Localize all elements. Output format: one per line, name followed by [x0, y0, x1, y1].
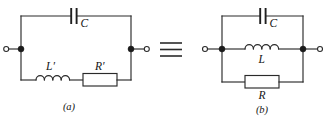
inductor-a-label: L′: [45, 60, 55, 72]
terminal-a-right-icon: [144, 47, 149, 52]
capacitor-b-icon: [260, 8, 265, 24]
node-b-left: [219, 46, 225, 52]
inductor-a-icon: [36, 76, 70, 80]
node-a-left: [18, 46, 24, 52]
circuit-equivalence-figure: C L′ R′ (a): [0, 0, 327, 118]
terminal-b-left-icon: [203, 47, 208, 52]
resistor-a-label: R′: [94, 60, 105, 72]
node-b-right: [300, 46, 306, 52]
equivalence-symbol-icon: [160, 43, 182, 56]
inductor-b-label: L: [258, 53, 265, 65]
resistor-b-icon: [245, 76, 279, 89]
terminal-b-right-icon: [318, 47, 323, 52]
resistor-b-label: R: [258, 89, 266, 101]
capacitor-a-label: C: [81, 17, 89, 29]
terminal-a-left-icon: [4, 47, 9, 52]
capacitor-b-label: C: [270, 17, 278, 29]
figure-canvas: C L′ R′ (a): [0, 0, 327, 118]
capacitor-a-icon: [71, 8, 76, 24]
node-a-right: [128, 46, 134, 52]
inductor-b-icon: [245, 45, 279, 49]
circuit-b: C L R (b): [203, 8, 323, 116]
resistor-a-icon: [83, 74, 117, 87]
caption-b: (b): [256, 104, 269, 116]
circuit-a: C L′ R′ (a): [4, 8, 150, 113]
caption-a: (a): [63, 101, 76, 113]
